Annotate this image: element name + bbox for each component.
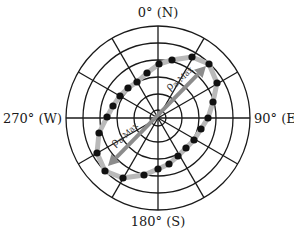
data-point <box>119 174 126 181</box>
data-point <box>188 53 195 60</box>
data-point <box>168 56 175 63</box>
data-point <box>197 125 204 132</box>
data-point <box>95 129 102 136</box>
data-point <box>116 92 123 99</box>
data-point <box>93 149 100 156</box>
data-point <box>109 102 116 109</box>
label-south: 180° (S) <box>131 214 186 229</box>
data-point <box>143 69 150 76</box>
data-point <box>101 167 108 174</box>
data-point <box>205 60 212 67</box>
label-east: 90° (E) <box>254 111 294 126</box>
data-point <box>213 79 220 86</box>
radial-spokes <box>66 26 250 210</box>
data-point <box>204 114 211 121</box>
data-point <box>154 165 161 172</box>
label-west: 270° (W) <box>3 111 62 126</box>
data-point <box>124 84 131 91</box>
data-point <box>133 78 140 85</box>
polar-diagram: 0° (N) 90° (E) 180° (S) 270° (W) ρa-Max … <box>0 0 294 235</box>
rho-label-sw: ρa-Max <box>108 117 140 149</box>
rho-max-double-arrow <box>108 66 206 166</box>
data-point <box>190 136 197 143</box>
data-point <box>174 152 181 159</box>
data-point <box>209 98 216 105</box>
data-point <box>182 144 189 151</box>
svg-text:ρa-Max: ρa-Max <box>108 117 140 149</box>
label-north: 0° (N) <box>138 5 178 20</box>
data-point <box>165 160 172 167</box>
data-point <box>140 171 147 178</box>
data-point <box>155 60 162 67</box>
data-point <box>103 113 110 120</box>
